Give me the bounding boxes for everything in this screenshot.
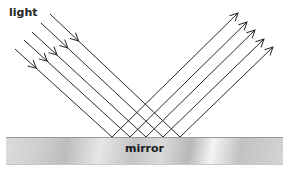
mirror-label: mirror: [6, 142, 283, 155]
incident-ray: [50, 14, 180, 137]
incident-ray: [24, 40, 130, 137]
reflected-ray: [180, 47, 273, 137]
incident-ray: [41, 23, 163, 137]
reflected-ray: [163, 39, 264, 137]
mirror-surface: mirror: [6, 137, 283, 165]
incident-ray: [32, 32, 146, 137]
light-label: light: [9, 6, 38, 19]
reflected-ray: [130, 22, 247, 137]
reflection-diagram: light mirror: [0, 0, 289, 169]
incident-ray: [15, 49, 112, 137]
reflected-ray: [112, 13, 238, 137]
